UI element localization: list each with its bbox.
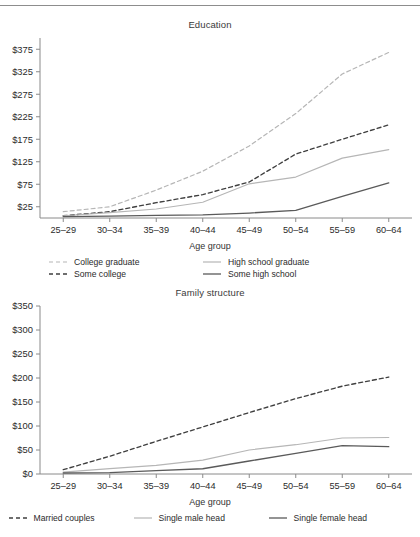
legend-label: High school graduate	[228, 257, 309, 267]
ytick-label: $0	[23, 468, 33, 479]
series-line	[63, 125, 389, 216]
legend-item-married-couples: Married couples	[8, 513, 133, 523]
legend-label: Married couples	[34, 513, 95, 523]
legend-item-some-high-school: Some high school	[202, 269, 372, 279]
chart-panel-family-structure: Family structure $0$50$100$150$200$250$3…	[0, 286, 420, 534]
ytick-label: $325	[12, 66, 33, 77]
ytick-label: $75	[17, 179, 33, 190]
xtick-label: 35–39	[143, 481, 169, 491]
legend-swatch-solid-dark-icon	[202, 270, 222, 278]
xtick-label: 30–34	[97, 225, 123, 235]
legend-item-college-graduate: College graduate	[48, 257, 198, 267]
legend-label: College graduate	[74, 257, 139, 267]
legend-swatch-solid-dark-icon	[268, 514, 288, 522]
xaxis-label-family-structure: Age group	[0, 497, 420, 507]
series-line	[63, 377, 389, 470]
legend-item-single-female-head: Single female head	[268, 513, 413, 523]
xtick-label: 60–64	[376, 481, 402, 491]
xtick-label: 50–54	[283, 481, 309, 491]
legend-item-some-college: Some college	[48, 269, 198, 279]
ytick-label: $100	[12, 420, 33, 431]
legend-label: Single male head	[159, 513, 225, 523]
plot-area-family-structure: $0$50$100$150$200$250$300$35025–2930–343…	[0, 300, 420, 496]
xtick-label: 40–44	[190, 481, 216, 491]
chart-title-family-structure: Family structure	[0, 286, 420, 300]
xtick-label: 45–49	[236, 481, 262, 491]
xtick-label: 25–29	[50, 481, 76, 491]
xtick-label: 55–59	[329, 481, 355, 491]
plot-area-education: $25$75$125$175$225$275$325$37525–2930–34…	[0, 32, 420, 240]
xaxis-label-education: Age group	[0, 241, 420, 251]
ytick-label: $225	[12, 111, 33, 122]
legend-item-high-school-graduate: High school graduate	[202, 257, 372, 267]
legend-education: College graduate High school graduate So…	[0, 257, 420, 279]
ytick-label: $125	[12, 156, 33, 167]
xtick-label: 60–64	[376, 225, 402, 235]
ytick-label: $175	[12, 134, 33, 145]
ytick-label: $250	[12, 348, 33, 359]
ytick-label: $300	[12, 324, 33, 335]
legend-family-structure: Married couples Single male head Single …	[0, 513, 420, 523]
ytick-label: $150	[12, 396, 33, 407]
legend-swatch-dashed-dark-icon	[8, 514, 28, 522]
legend-label: Single female head	[294, 513, 368, 523]
legend-item-single-male-head: Single male head	[133, 513, 268, 523]
chart-panel-education: Education $25$75$125$175$225$275$325$375…	[0, 18, 420, 280]
legend-swatch-dashed-dark-icon	[48, 270, 68, 278]
xtick-label: 50–54	[283, 225, 309, 235]
line-chart-family-structure: $0$50$100$150$200$250$300$35025–2930–343…	[0, 300, 420, 496]
line-chart-education: $25$75$125$175$225$275$325$37525–2930–34…	[0, 32, 420, 240]
ytick-label: $50	[17, 444, 33, 455]
legend-swatch-solid-light-icon	[202, 258, 222, 266]
page-top-rule	[0, 5, 420, 6]
xtick-label: 55–59	[329, 225, 355, 235]
xtick-label: 45–49	[236, 225, 262, 235]
legend-swatch-dashed-light-icon	[48, 258, 68, 266]
ytick-label: $200	[12, 372, 33, 383]
ytick-label: $350	[12, 300, 33, 311]
ytick-label: $375	[12, 44, 33, 55]
xtick-label: 25–29	[50, 225, 76, 235]
ytick-label: $275	[12, 89, 33, 100]
xtick-label: 40–44	[190, 225, 216, 235]
chart-title-education: Education	[0, 18, 420, 32]
legend-label: Some high school	[228, 269, 296, 279]
ytick-label: $25	[17, 201, 33, 212]
xtick-label: 30–34	[97, 481, 123, 491]
legend-swatch-solid-light-icon	[133, 514, 153, 522]
xtick-label: 35–39	[143, 225, 169, 235]
legend-label: Some college	[74, 269, 126, 279]
